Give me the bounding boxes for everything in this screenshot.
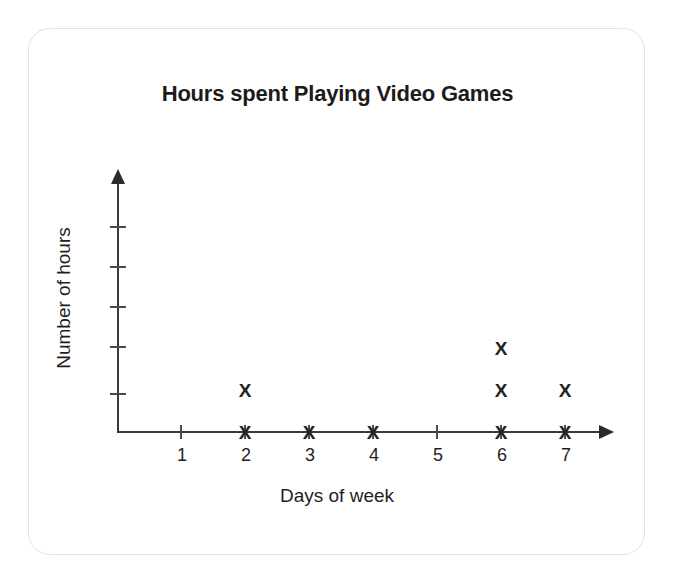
data-point-marker: X (488, 381, 514, 400)
plot-area: 1234567 XXXXXXXXX Number of hours Days o… (29, 29, 646, 556)
x-axis-tick-label: 4 (354, 445, 394, 466)
x-axis-tick-label: 7 (546, 445, 586, 466)
y-axis-tick (110, 266, 126, 268)
data-point-marker: X (488, 423, 514, 442)
x-axis-tick-label: 1 (162, 445, 202, 466)
x-axis-tick-label: 3 (290, 445, 330, 466)
y-axis-tick (110, 306, 126, 308)
x-axis-tick (436, 425, 438, 439)
data-point-marker: X (296, 423, 322, 442)
x-axis-tick-label: 6 (482, 445, 522, 466)
data-point-marker: X (232, 381, 258, 400)
chart-card: Hours spent Playing Video Games 1234567 … (28, 28, 645, 555)
x-axis-arrow-icon (599, 425, 614, 439)
x-axis-tick-label: 5 (418, 445, 458, 466)
data-point-marker: X (488, 339, 514, 358)
y-axis-title: Number of hours (53, 198, 75, 398)
data-point-marker: X (552, 381, 578, 400)
y-axis-tick (110, 393, 126, 395)
x-axis-line (117, 431, 601, 433)
y-axis-tick (110, 226, 126, 228)
x-axis-tick (180, 425, 182, 439)
y-axis-arrow-icon (111, 169, 125, 184)
data-point-marker: X (360, 423, 386, 442)
x-axis-title: Days of week (117, 485, 557, 507)
x-axis-tick-label: 2 (226, 445, 266, 466)
data-point-marker: X (552, 423, 578, 442)
y-axis-tick (110, 346, 126, 348)
data-point-marker: X (232, 423, 258, 442)
